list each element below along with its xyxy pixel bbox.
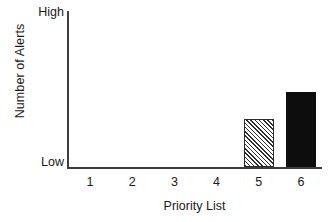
y-tick-label-low: Low bbox=[16, 155, 64, 169]
x-tick-label-6: 6 bbox=[286, 175, 316, 189]
bar-5 bbox=[244, 119, 274, 167]
y-tick-label-high: High bbox=[16, 5, 64, 19]
y-axis-title: Number of Alerts bbox=[13, 11, 27, 131]
alerts-bar-chart: Number of Alerts High Low 123456 Priorit… bbox=[0, 0, 332, 222]
x-tick-label-2: 2 bbox=[117, 175, 147, 189]
x-tick-label-5: 5 bbox=[244, 175, 274, 189]
x-tick-label-1: 1 bbox=[75, 175, 105, 189]
bar-6 bbox=[286, 92, 316, 167]
x-axis-line bbox=[67, 167, 322, 169]
x-tick-label-4: 4 bbox=[202, 175, 232, 189]
x-axis-title: Priority List bbox=[67, 199, 322, 213]
plot-area bbox=[69, 11, 322, 167]
x-tick-label-3: 3 bbox=[159, 175, 189, 189]
